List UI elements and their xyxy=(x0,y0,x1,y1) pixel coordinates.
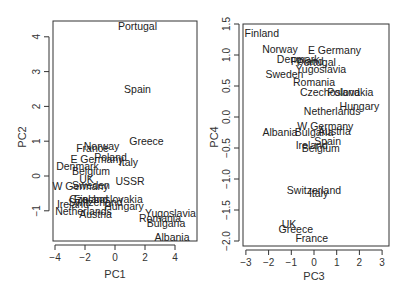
point-label: Portugal xyxy=(118,20,157,32)
y-tick-label: −1.0 xyxy=(221,169,232,189)
x-tick-label: −2 xyxy=(79,252,91,263)
x-axis-label: PC3 xyxy=(303,270,324,282)
x-tick-label: 2 xyxy=(357,257,363,268)
x-tick-label: −4 xyxy=(49,252,61,263)
point-label: Italy xyxy=(119,156,139,168)
point-label: Albania xyxy=(262,126,297,138)
y-axis-label: PC4 xyxy=(208,126,220,147)
point-label: Albania xyxy=(154,231,189,243)
y-tick-label: 0.5 xyxy=(221,79,232,93)
x-axis: −3−2−10123 xyxy=(240,250,385,268)
point-label: France xyxy=(295,232,328,244)
point-label: Austria xyxy=(79,208,112,220)
x-tick-label: 0 xyxy=(311,257,317,268)
right-panel: −3−2−10123 −2.0−1.5−1.0−0.50.00.51.01.5 … xyxy=(208,17,389,282)
point-label: Belgium xyxy=(302,142,340,154)
point-label: W Germany xyxy=(52,180,109,192)
point-labels: FinlandNorwayE GermanyDenmarkPolandPortu… xyxy=(245,27,380,244)
x-tick-label: 1 xyxy=(334,257,340,268)
point-label: Spain xyxy=(124,83,151,95)
y-axis: −2.0−1.5−1.0−0.50.00.51.01.5 xyxy=(221,17,239,251)
x-tick-label: −2 xyxy=(263,257,275,268)
point-label: Netherlands xyxy=(304,105,361,117)
y-tick-label: 1 xyxy=(31,138,42,144)
point-label: Italy xyxy=(309,187,329,199)
x-tick-label: 0 xyxy=(112,252,118,263)
point-label: Bulgaria xyxy=(147,217,186,229)
point-label: Greece xyxy=(129,135,164,147)
x-tick-label: 3 xyxy=(379,257,385,268)
pca-figure: −4−2024 −101234 PC1 PC2 PortugalSpainGre… xyxy=(0,0,406,290)
y-tick-label: 0 xyxy=(31,173,42,179)
x-axis-label: PC1 xyxy=(104,268,125,280)
point-label: USSR xyxy=(115,175,145,187)
x-tick-label: 4 xyxy=(172,252,178,263)
y-tick-label: −0.5 xyxy=(221,138,232,158)
x-axis: −4−2024 xyxy=(49,245,178,263)
x-tick-label: −1 xyxy=(286,257,298,268)
y-tick-label: 1.0 xyxy=(221,48,232,62)
y-tick-label: −1 xyxy=(31,205,42,217)
y-tick-label: 2 xyxy=(31,103,42,109)
point-labels: PortugalSpainGreeceNorwayFrancePolandE G… xyxy=(52,20,196,243)
y-tick-label: 0.0 xyxy=(221,110,232,124)
y-axis-label: PC2 xyxy=(16,126,28,147)
point-label: Finland xyxy=(245,27,280,39)
x-tick-label: 2 xyxy=(142,252,148,263)
y-tick-label: −2.0 xyxy=(221,231,232,251)
y-tick-label: −1.5 xyxy=(221,200,232,220)
y-tick-label: 3 xyxy=(31,68,42,74)
x-tick-label: −3 xyxy=(240,257,252,268)
point-label: Poland xyxy=(327,86,360,98)
y-tick-label: 1.5 xyxy=(221,17,232,31)
y-tick-label: 4 xyxy=(31,34,42,40)
y-axis: −101234 xyxy=(31,34,49,217)
left-panel: −4−2024 −101234 PC1 PC2 PortugalSpainGre… xyxy=(16,20,197,280)
